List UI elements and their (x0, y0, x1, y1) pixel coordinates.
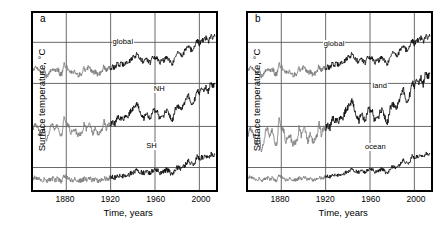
panel-a-x-tick-label-1880: 1880 (56, 195, 75, 204)
panel-a-x-tick-label-1960: 1960 (146, 195, 165, 204)
panel-a-series-label-global: global (112, 38, 135, 46)
panel-b-x-tick-label-1920: 1920 (316, 195, 335, 204)
panel-a-y-axis-title: Surface temperature, °C (37, 25, 47, 175)
panel-a-x-tick-label-2000: 2000 (192, 195, 211, 204)
panel-b: globallandocean b Surface temperature, °… (246, 11, 433, 192)
panel-b-plot-frame: globallandocean (246, 11, 433, 192)
figure-two-panel-temperature-chart: globalNHSH a Surface temperature, °C glo… (0, 0, 443, 238)
panel-b-x-axis-title: Time, years (319, 208, 368, 218)
panel-a-letter: a (38, 13, 48, 24)
panel-b-x-tick-label-2000: 2000 (407, 195, 426, 204)
panel-b-x-tick-label-1960: 1960 (361, 195, 380, 204)
panel-b-y-axis-title: Surface temperature, °C (252, 25, 262, 175)
panel-b-series-label-land: land (371, 82, 388, 90)
panel-a: globalNHSH a Surface temperature, °C (31, 11, 218, 192)
panel-b-x-tick-label-1880: 1880 (271, 195, 290, 204)
panel-a-x-tick-label-1920: 1920 (101, 195, 120, 204)
panel-b-series-label-global: global (323, 40, 346, 48)
panel-b-series-label-ocean: ocean (364, 143, 387, 151)
panel-a-series-label-SH: SH (145, 142, 158, 150)
panel-b-letter: b (253, 13, 263, 24)
panel-a-x-axis-title: Time, years (104, 208, 153, 218)
panel-a-plot-frame: globalNHSH (31, 11, 218, 192)
panel-a-series-label-NH: NH (153, 85, 166, 93)
